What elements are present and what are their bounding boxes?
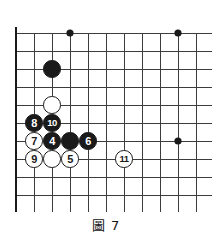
stone-move-7[interactable]: 7 [25, 132, 43, 150]
stone-move-9[interactable]: 9 [25, 150, 43, 168]
stone-layer: 8107469511 [0, 0, 212, 212]
stone-black[interactable] [43, 60, 61, 78]
stone-move-6[interactable]: 6 [79, 132, 97, 150]
stone-move-number: 4 [49, 135, 55, 146]
stone-move-5[interactable]: 5 [61, 150, 79, 168]
stone-move-number: 7 [31, 135, 37, 146]
stone-move-number: 6 [85, 135, 91, 146]
stone-move-number: 10 [47, 118, 57, 128]
stone-move-number: 11 [119, 154, 128, 164]
stone-move-number: 9 [31, 153, 37, 164]
figure-caption-text: 圖 7 [92, 218, 120, 233]
stone-move-number: 5 [67, 153, 73, 164]
go-board[interactable]: 8107469511 [0, 0, 212, 212]
stone-move-11[interactable]: 11 [115, 150, 133, 168]
stone-white[interactable] [43, 96, 61, 114]
stone-white[interactable] [43, 150, 61, 168]
stone-black[interactable] [61, 132, 79, 150]
stone-move-10[interactable]: 10 [43, 114, 61, 132]
figure-caption: 圖 7 [0, 215, 212, 234]
stone-move-4[interactable]: 4 [43, 132, 61, 150]
stone-move-8[interactable]: 8 [25, 114, 43, 132]
go-problem-figure: 8107469511 圖 7 [0, 0, 212, 243]
stone-move-number: 8 [31, 117, 37, 128]
